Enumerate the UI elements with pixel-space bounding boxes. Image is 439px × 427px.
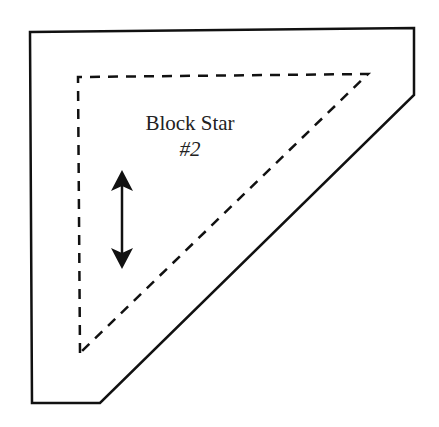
block-number: #2	[120, 137, 260, 162]
block-title: Block Star	[120, 111, 260, 136]
pattern-piece-svg	[0, 0, 439, 427]
grain-arrow-icon	[111, 170, 133, 269]
